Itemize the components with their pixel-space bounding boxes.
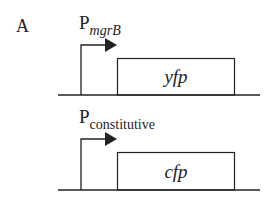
promoter-letter: P xyxy=(79,12,90,33)
promoter-label-1: PmgrB xyxy=(79,13,121,38)
promoter-arrow-icon xyxy=(81,45,106,95)
gene-label-2: cfp xyxy=(117,162,235,181)
promoter-arrow-icon xyxy=(81,139,106,190)
gene-label-1: yfp xyxy=(117,67,235,86)
promoter-subscript: constitutive xyxy=(90,117,155,132)
promoter-letter: P xyxy=(79,106,90,127)
arrowhead-icon xyxy=(105,38,117,52)
construct-2 xyxy=(58,132,260,190)
promoter-subscript: mgrB xyxy=(90,23,121,38)
promoter-label-2: Pconstitutive xyxy=(79,107,155,132)
panel-label: A xyxy=(16,17,29,35)
arrowhead-icon xyxy=(105,132,117,146)
